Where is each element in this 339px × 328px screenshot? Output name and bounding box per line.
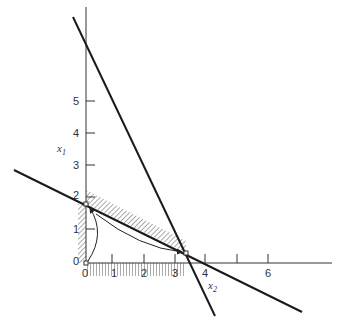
x1-axis-label: x1 [56, 142, 66, 157]
x2-tick-6: 6 [265, 267, 271, 279]
vertex-origin [84, 261, 88, 265]
x1-tick-3: 3 [73, 159, 79, 171]
x1-tick-4: 4 [73, 127, 79, 139]
x1-tick-1: 1 [73, 223, 79, 235]
arrow-origin-to-x1-intercept [88, 208, 98, 261]
x2-tick-3: 3 [172, 267, 178, 279]
x2-tick-1: 1 [111, 267, 117, 279]
hatch-x2-nonneg [78, 204, 86, 263]
x1-tick-5: 5 [73, 95, 79, 107]
x2-axis-label: x2 [207, 279, 217, 294]
x1-tick-0: 0 [73, 255, 79, 267]
axes: 0 1 2 3 4 5 0 1 2 3 4 6 x1 x2 [56, 7, 332, 294]
lp-diagram: 0 1 2 3 4 5 0 1 2 3 4 6 x1 x2 [0, 0, 339, 328]
vertex-x1-intercept [84, 202, 88, 206]
hatch-x1-nonneg [86, 263, 184, 276]
x2-tick-2: 2 [141, 267, 147, 279]
x2-tick-0: 0 [82, 267, 88, 279]
x2-tick-4: 4 [202, 267, 208, 279]
shallow-constraint-line [14, 170, 302, 312]
vertex-intersection [184, 251, 188, 255]
